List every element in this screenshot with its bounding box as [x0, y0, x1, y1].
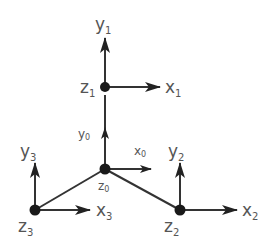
- frame-3: [35, 163, 90, 210]
- label-y1: y1: [95, 14, 111, 36]
- label-z3: z3: [18, 216, 33, 238]
- frame-1: [105, 38, 160, 87]
- label-z0: z0: [98, 179, 109, 194]
- label-x0: x0: [134, 144, 146, 159]
- node-z2: [175, 205, 186, 216]
- label-z2: z2: [164, 216, 179, 238]
- labels: y1 x1 z1 y0 x0 z0 y3 x3 z3 y2 x2 z2: [18, 14, 258, 238]
- frame-0: [105, 128, 151, 169]
- frame-2: [180, 163, 237, 210]
- nodes: [30, 82, 186, 216]
- label-y0: y0: [78, 127, 90, 142]
- label-y2: y2: [168, 141, 184, 163]
- edge-z0-z2: [105, 169, 180, 210]
- label-z1: z1: [80, 77, 95, 99]
- node-z0: [100, 164, 111, 175]
- coordinate-frames-diagram: y1 x1 z1 y0 x0 z0 y3 x3 z3 y2 x2 z2: [0, 0, 271, 240]
- label-x1: x1: [165, 77, 181, 99]
- edge-z0-z3: [35, 169, 105, 210]
- label-x3: x3: [96, 200, 112, 222]
- node-z1: [100, 82, 110, 92]
- node-z3: [30, 205, 41, 216]
- label-x2: x2: [242, 200, 258, 222]
- label-y3: y3: [20, 141, 36, 163]
